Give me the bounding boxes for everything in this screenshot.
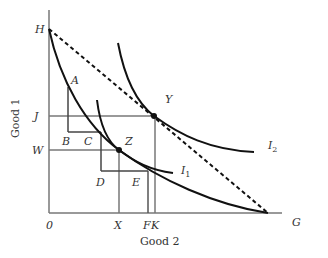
- label-z: Z: [124, 135, 133, 148]
- label-i2-sub: 2: [272, 145, 277, 154]
- x-axis-title: Good 2: [140, 235, 180, 248]
- diagram-svg: H A J B C W Z Y D E 0 X F K G I1 I2 Good…: [0, 0, 328, 258]
- label-h: H: [34, 23, 45, 36]
- label-d: D: [95, 176, 105, 189]
- label-f: F: [142, 219, 151, 232]
- label-a: A: [70, 74, 79, 87]
- label-i1-sub: 1: [185, 170, 190, 179]
- label-c: C: [84, 135, 93, 148]
- label-e: E: [131, 176, 140, 189]
- point-z-dot: [116, 147, 122, 153]
- label-y: Y: [165, 93, 174, 106]
- label-origin: 0: [46, 219, 53, 232]
- label-i2: I2: [267, 139, 277, 154]
- label-i1: I1: [180, 164, 190, 179]
- y-axis-title: Good 1: [9, 98, 22, 138]
- label-b: B: [61, 135, 70, 148]
- label-g: G: [292, 216, 301, 229]
- label-w: W: [32, 144, 45, 157]
- indifference-curve-i2: [118, 43, 254, 152]
- label-j: J: [32, 110, 39, 123]
- label-x: X: [113, 219, 123, 232]
- economics-diagram: H A J B C W Z Y D E 0 X F K G I1 I2 Good…: [0, 0, 328, 258]
- label-k: K: [150, 219, 160, 232]
- budget-line-dashed: [49, 29, 268, 213]
- point-y-dot: [151, 113, 157, 119]
